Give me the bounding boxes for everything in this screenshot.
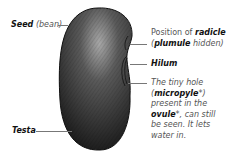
hilum-term: Hilum xyxy=(151,59,177,68)
label-seed: Seed (bean) xyxy=(11,20,62,31)
plumule-term: plumule xyxy=(154,39,190,48)
label-micropyle: The tiny hole (micropyle*) present in th… xyxy=(151,78,216,142)
leader-line-testa xyxy=(36,131,72,132)
label-hilum: Hilum xyxy=(151,59,177,70)
testa-term: Testa xyxy=(12,126,36,135)
micropyle-line-1: The tiny hole xyxy=(151,78,216,89)
micropyle-line-3: present in the xyxy=(151,99,216,110)
micropyle-line-4-rest: *, can still xyxy=(176,110,216,119)
micropyle-line-5: be seen. It lets xyxy=(151,120,216,131)
leader-line-hilum xyxy=(130,64,147,65)
ovule-term: ovule xyxy=(151,110,176,119)
plumule-suffix: hidden) xyxy=(191,39,224,48)
radicle-term: radicle xyxy=(195,28,226,37)
label-testa: Testa xyxy=(12,126,36,137)
leader-line-radicle xyxy=(130,44,147,45)
seed-term: Seed xyxy=(11,20,33,29)
micropyle-term: micropyle xyxy=(154,89,198,98)
micropyle-line-6: water in. xyxy=(151,131,216,142)
leader-line-seed xyxy=(58,25,68,26)
label-radicle: Position of radicle (plumule hidden) xyxy=(151,28,226,49)
leader-line-micropyle xyxy=(128,83,147,84)
radicle-prefix: Position of xyxy=(151,28,195,37)
micropyle-close: *) xyxy=(199,89,206,98)
seed-body xyxy=(59,8,132,150)
